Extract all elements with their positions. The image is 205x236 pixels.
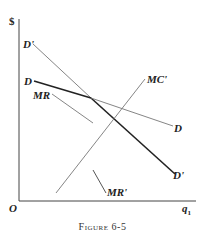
diagram-canvas xyxy=(0,0,205,236)
d-label-right: D xyxy=(174,123,182,134)
mr-prime-curve xyxy=(93,170,106,193)
mc-prime-label: MC' xyxy=(147,74,167,85)
mc-prime-curve xyxy=(56,79,145,193)
mr-curve xyxy=(52,94,93,123)
d-prime-label-bottom: D' xyxy=(173,170,184,181)
figure-6-5: $ O q1 D' D MR MC' D D' MR' Figure 6-5 xyxy=(0,0,205,236)
mr-prime-label: MR' xyxy=(107,187,127,198)
x-axis-label: q1 xyxy=(182,203,191,217)
x-axis-label-subscript: 1 xyxy=(188,209,192,217)
origin-label: O xyxy=(9,203,17,214)
figure-caption: Figure 6-5 xyxy=(0,221,205,232)
mr-label: MR xyxy=(33,90,50,101)
d-label-left: D xyxy=(24,76,32,87)
d-curve-right xyxy=(91,98,173,126)
d-prime-curve-lower xyxy=(91,98,175,174)
d-prime-label-top: D' xyxy=(23,39,34,50)
y-axis-label: $ xyxy=(9,16,15,27)
